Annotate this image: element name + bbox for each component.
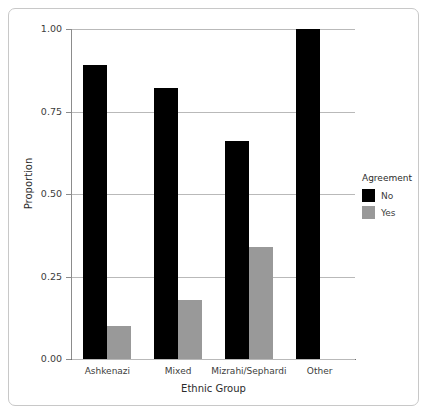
legend-title: Agreement bbox=[362, 173, 424, 183]
y-axis-title: Proportion bbox=[23, 139, 34, 229]
y-tick-mark bbox=[66, 29, 71, 30]
plot-area bbox=[72, 29, 355, 359]
y-tick-label: 0.25 bbox=[26, 272, 62, 282]
chart-figure: Proportion Ethnic Group 0.000.250.500.75… bbox=[0, 0, 429, 416]
y-tick-label: 0.00 bbox=[26, 354, 62, 364]
legend-item-yes: Yes bbox=[362, 204, 424, 221]
y-tick-mark bbox=[66, 359, 71, 360]
bar-ashkenazi-yes bbox=[107, 326, 131, 359]
y-tick-label: 1.00 bbox=[26, 24, 62, 34]
bar-mizrahi-sephardi-yes bbox=[249, 247, 273, 359]
x-tick-label: Mixed bbox=[165, 366, 192, 376]
legend-entries: NoYes bbox=[362, 187, 424, 221]
x-axis-title: Ethnic Group bbox=[72, 383, 355, 394]
bar-mizrahi-sephardi-no bbox=[225, 141, 249, 359]
y-tick-mark bbox=[66, 277, 71, 278]
legend-item-no: No bbox=[362, 187, 424, 204]
legend-swatch-no bbox=[362, 189, 375, 202]
legend: Agreement NoYes bbox=[362, 173, 424, 221]
bar-ashkenazi-no bbox=[83, 65, 107, 359]
legend-label: Yes bbox=[381, 208, 396, 218]
legend-label: No bbox=[381, 191, 393, 201]
bar-mixed-yes bbox=[178, 300, 202, 359]
y-tick-mark bbox=[66, 112, 71, 113]
x-tick-label: Mizrahi/Sephardi bbox=[211, 366, 286, 376]
x-tick-label: Other bbox=[307, 366, 333, 376]
y-tick-label: 0.50 bbox=[26, 189, 62, 199]
bar-other-no bbox=[296, 29, 320, 359]
y-tick-label: 0.75 bbox=[26, 107, 62, 117]
bar-mixed-no bbox=[154, 88, 178, 359]
y-tick-mark bbox=[66, 194, 71, 195]
legend-swatch-yes bbox=[362, 206, 375, 219]
x-tick-label: Ashkenazi bbox=[85, 366, 130, 376]
grid-line bbox=[72, 359, 355, 360]
